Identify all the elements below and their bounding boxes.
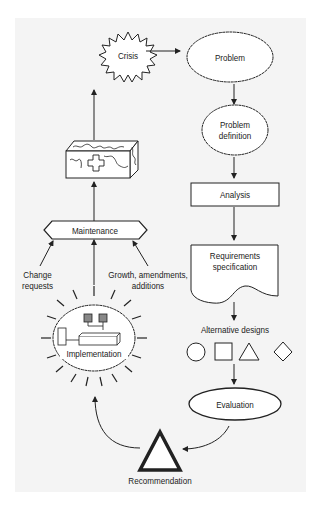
change-requests-label-2: requests	[18, 280, 56, 291]
broken-system-box-icon	[66, 141, 138, 178]
diagram-canvas	[0, 0, 325, 508]
arrow-growth	[133, 241, 148, 266]
problem-definition-label-2: definition	[205, 130, 265, 141]
arrow-evaluation-recommendation	[183, 426, 229, 449]
recommendation-label: Recommendation	[118, 475, 203, 486]
problem-label: Problem	[205, 52, 256, 63]
alternative-designs-shapes	[187, 342, 292, 361]
alternative-designs-label: Alternative designs	[188, 324, 282, 335]
recommendation-triangle	[140, 432, 180, 470]
circle-shape-icon	[187, 343, 205, 361]
triangle-shape-icon	[239, 343, 259, 360]
growth-label-2: additions	[106, 280, 191, 291]
crisis-label: Crisis	[111, 50, 145, 61]
diamond-shape-icon	[274, 342, 292, 361]
change-requests-label-1: Change	[18, 269, 56, 280]
square-shape-icon	[215, 343, 232, 360]
implementation-label: Implementation	[60, 348, 128, 359]
maintenance-label: Maintenance	[61, 225, 129, 236]
requirements-label-2: specification	[201, 261, 269, 272]
arrow-change-requests	[40, 241, 53, 266]
problem-definition-label-1: Problem	[205, 119, 265, 130]
analysis-label: Analysis	[201, 189, 269, 200]
arrow-recommendation-implementation	[95, 397, 140, 448]
evaluation-label: Evaluation	[201, 399, 269, 410]
requirements-label-1: Requirements	[201, 250, 269, 261]
growth-label-1: Growth, amendments,	[106, 269, 191, 280]
